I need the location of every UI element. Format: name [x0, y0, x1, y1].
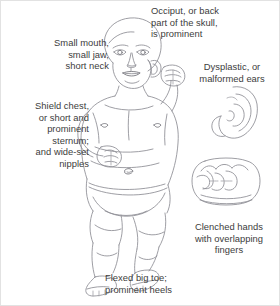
infant-torso — [81, 96, 178, 190]
caption-small-mouth-jaw-neck: Small mouth, small jaw, short neck — [5, 37, 109, 72]
caption-flexed-big-toe: Flexed big toe; prominent heels — [105, 272, 223, 295]
caption-clenched-hands: Clenched hands with overlapping fingers — [179, 221, 279, 256]
infant-features-diagram: Occiput, or back part of the skull, is p… — [0, 0, 280, 306]
caption-occiput: Occiput, or back part of the skull, is p… — [151, 5, 271, 40]
infant-hips — [86, 179, 170, 216]
caption-shield-chest: Shield chest, or short and prominent ste… — [1, 100, 89, 170]
caption-dysplastic-ears: Dysplastic, or malformed ears — [185, 61, 279, 84]
infant-arms — [78, 65, 185, 167]
ear-inset-illustration — [212, 87, 258, 139]
fist-inset-illustration — [192, 158, 260, 205]
